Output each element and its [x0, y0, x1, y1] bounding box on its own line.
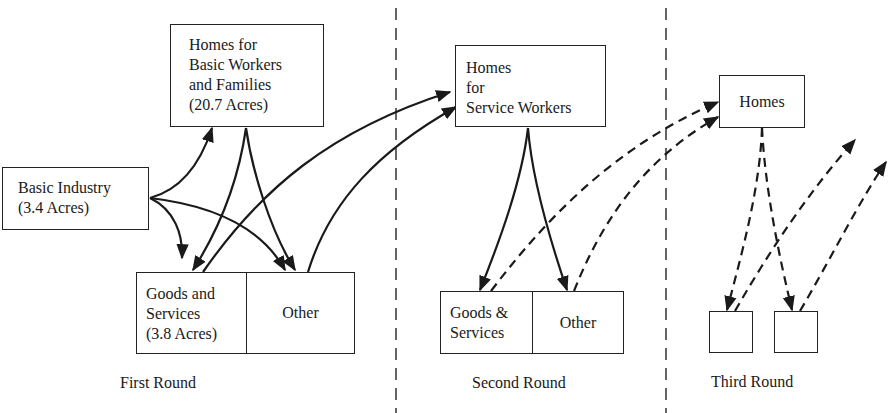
- other-box-round2: Other: [532, 291, 624, 354]
- basic-industry-box: Basic Industry (3.4 Acres): [2, 167, 149, 230]
- goods2-line1: Goods &: [450, 303, 508, 323]
- goods-line2: Services: [146, 304, 217, 324]
- third-round-box-2: [774, 311, 818, 353]
- third-round-box-1: [709, 311, 753, 353]
- second-round-label: Second Round: [472, 374, 566, 392]
- basic-industry-line2: (3.4 Acres): [18, 198, 111, 218]
- homes-basic-line2: Basic Workers: [189, 55, 282, 75]
- homes-basic-line1: Homes for: [189, 35, 282, 55]
- basic-industry-line1: Basic Industry: [18, 178, 111, 198]
- goods-line1: Goods and: [146, 284, 217, 304]
- homes-service-line1: Homes: [466, 58, 572, 78]
- homes-basic-workers-box: Homes for Basic Workers and Families (20…: [170, 24, 324, 127]
- third-round-label: Third Round: [711, 373, 793, 391]
- first-round-label: First Round: [120, 374, 196, 392]
- homes-basic-line3: and Families: [189, 75, 282, 95]
- goods-services-box-round2: Goods & Services: [440, 291, 534, 354]
- homes-basic-line4: (20.7 Acres): [189, 95, 282, 115]
- other-label-round1: Other: [282, 303, 318, 323]
- homes-box-round3: Homes: [719, 75, 805, 128]
- goods-line3: (3.8 Acres): [146, 324, 217, 344]
- homes-service-workers-box: Homes for Service Workers: [455, 45, 606, 127]
- homes-service-line3: Service Workers: [466, 98, 572, 118]
- goods-services-box-round1: Goods and Services (3.8 Acres): [136, 272, 248, 354]
- other-label-round2: Other: [560, 313, 596, 333]
- homes-label-round3: Homes: [739, 92, 784, 112]
- goods2-line2: Services: [450, 323, 508, 343]
- homes-service-line2: for: [466, 78, 572, 98]
- other-box-round1: Other: [246, 272, 355, 354]
